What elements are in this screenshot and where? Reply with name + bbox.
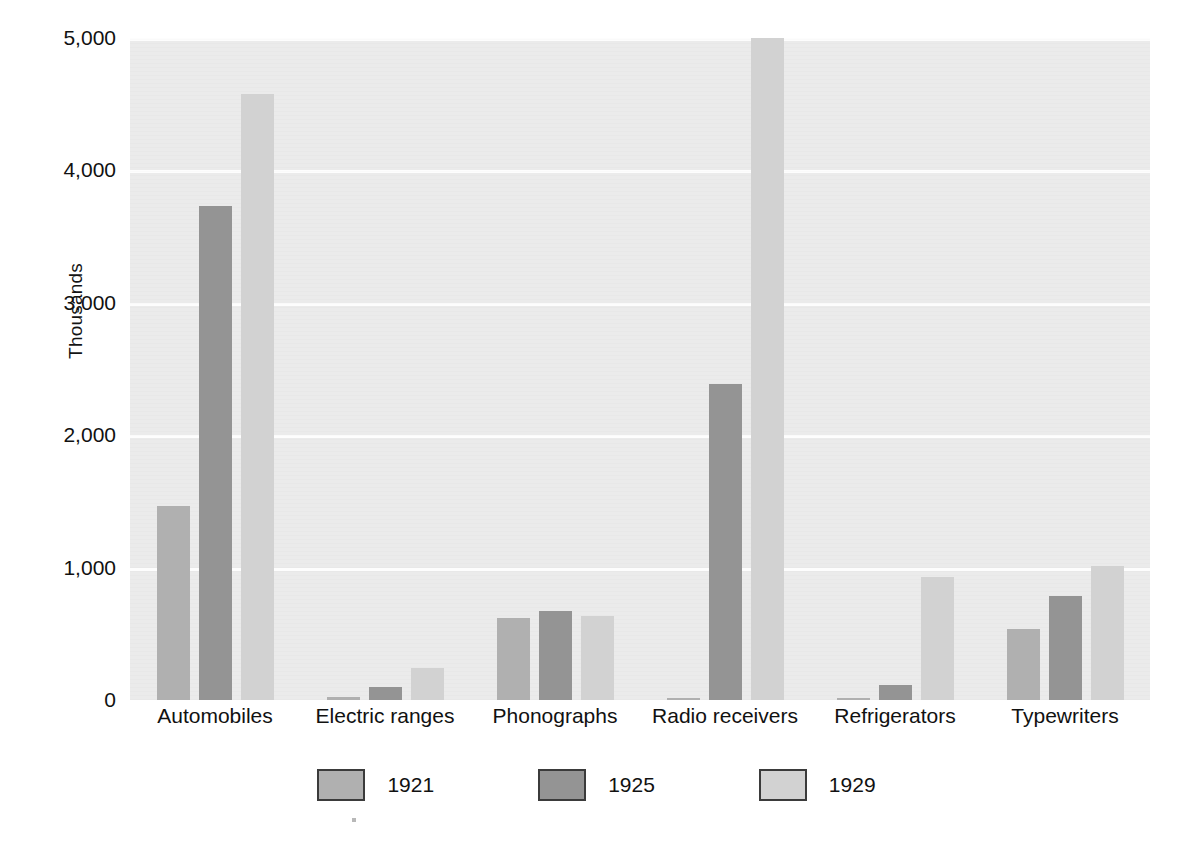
bar [1049, 596, 1082, 700]
bar [667, 698, 700, 700]
bars-layer [130, 38, 1150, 700]
bar [837, 698, 870, 700]
legend-swatch [538, 769, 586, 801]
y-axis-tick-label: 1,000 [0, 556, 116, 580]
y-axis-tick-label: 0 [0, 688, 116, 712]
legend-label: 1925 [608, 773, 655, 797]
bar [539, 611, 572, 700]
bar [369, 687, 402, 700]
y-axis-tick-labels: 01,0002,0003,0004,0005,000 [0, 0, 124, 847]
x-axis-category-label: Typewriters [1011, 704, 1118, 728]
bar [157, 506, 190, 700]
x-axis-category-label: Refrigerators [834, 704, 955, 728]
bar [581, 616, 614, 700]
bar [1007, 629, 1040, 700]
legend-entry: 1925 [538, 769, 655, 801]
bar [921, 577, 954, 700]
y-axis-tick-label: 5,000 [0, 26, 116, 50]
y-axis-tick-label: 4,000 [0, 158, 116, 182]
bar [497, 618, 530, 700]
legend-entry: 1929 [759, 769, 876, 801]
plot-area [130, 38, 1150, 700]
bar [751, 38, 784, 700]
legend-label: 1929 [829, 773, 876, 797]
bar [411, 668, 444, 700]
bar [1091, 566, 1124, 700]
bar [241, 94, 274, 700]
x-axis-category-label: Electric ranges [316, 704, 455, 728]
x-axis-category-label: Radio receivers [652, 704, 798, 728]
bar-chart-figure: Thousands 01,0002,0003,0004,0005,000 Aut… [0, 0, 1193, 847]
chart-legend: 192119251929 [0, 762, 1193, 808]
legend-swatch [759, 769, 807, 801]
x-axis-category-label: Phonographs [493, 704, 618, 728]
scan-speck [352, 818, 356, 822]
x-axis-category-labels: AutomobilesElectric rangesPhonographsRad… [130, 704, 1150, 738]
bar [879, 685, 912, 700]
bar [709, 384, 742, 700]
legend-entry: 1921 [317, 769, 434, 801]
legend-swatch [317, 769, 365, 801]
legend-label: 1921 [387, 773, 434, 797]
bar [199, 206, 232, 701]
y-axis-tick-label: 2,000 [0, 423, 116, 447]
x-axis-category-label: Automobiles [157, 704, 273, 728]
y-axis-tick-label: 3,000 [0, 291, 116, 315]
bar [327, 697, 360, 700]
